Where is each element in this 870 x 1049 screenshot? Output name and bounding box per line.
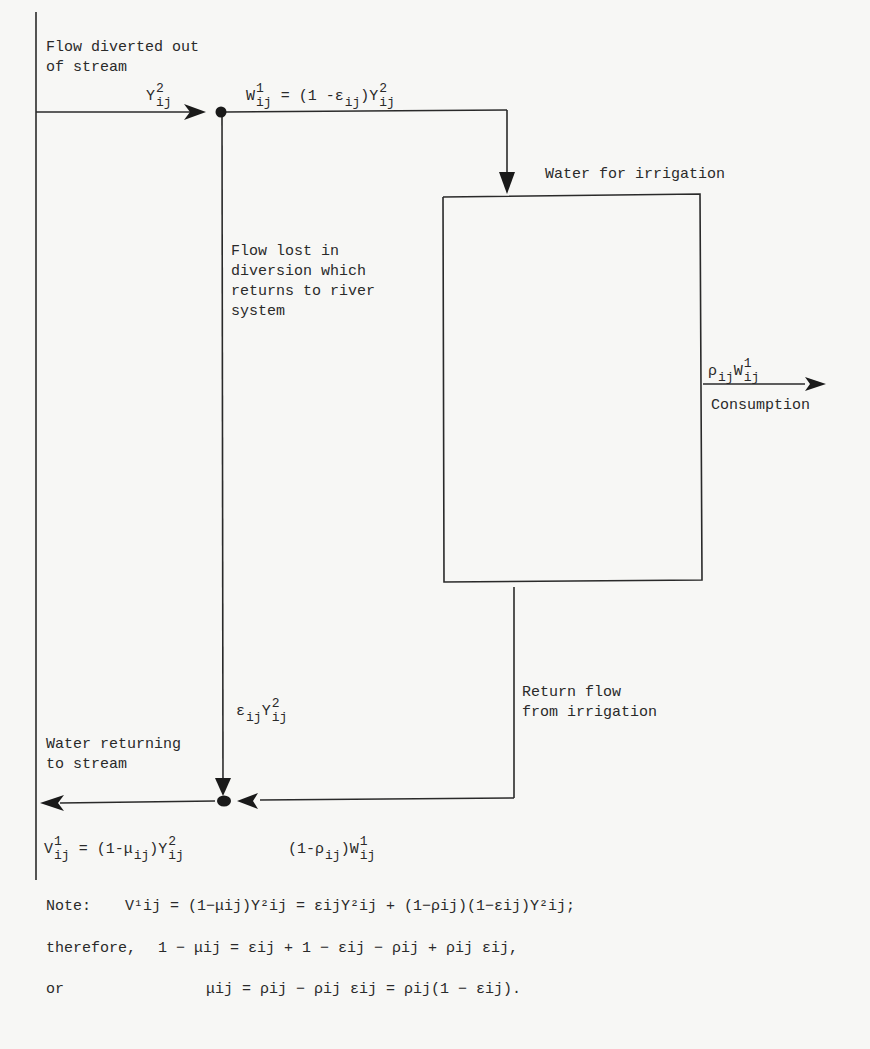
- label-return-flow: Return flow from irrigation: [522, 683, 657, 723]
- label-return-equation: (1-ρ ij)W1ij: [288, 835, 375, 863]
- or-equation: μij = ρij − ρij εij = ρij(1 − εij).: [206, 980, 521, 1000]
- label-water-for-irrigation: Water for irrigation: [545, 165, 725, 185]
- label-w-equation: W1ij = (1 -ε ij)Y2ij: [246, 82, 395, 110]
- label-v-equation: V1ij = (1-μ ij)Y2ij: [44, 835, 184, 863]
- label-consumption: Consumption: [711, 396, 810, 416]
- note-label: Note:: [46, 897, 91, 917]
- note-equation: V¹ij = (1−μij)Y²ij = εijY²ij + (1−ρij)(1…: [125, 897, 575, 917]
- or-label: or: [46, 980, 64, 1000]
- label-flow-lost: Flow lost in diversion which returns to …: [231, 242, 375, 322]
- label-y-diverted: Y2ij: [146, 82, 172, 110]
- therefore-equation: 1 − μij = εij + 1 − εij − ρij + ρij εij,: [158, 939, 518, 959]
- label-flow-diverted: Flow diverted out of stream: [46, 38, 199, 78]
- therefore-label: therefore,: [46, 939, 136, 959]
- flow-lines: [0, 0, 870, 1049]
- label-water-returning: Water returning to stream: [46, 735, 181, 775]
- label-consumption-equation: ρ ijW1ij: [708, 357, 759, 385]
- label-lost-equation: ε ijY2ij: [236, 697, 287, 725]
